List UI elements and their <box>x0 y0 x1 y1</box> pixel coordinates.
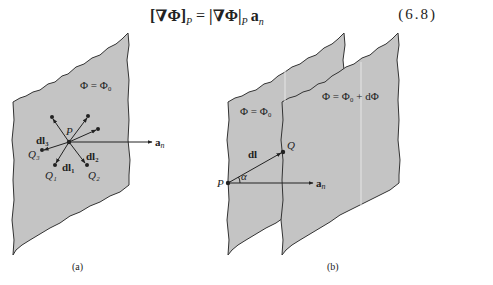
point-p-b <box>226 181 230 185</box>
label-dl-b: dl <box>248 148 257 160</box>
label-alpha: α <box>241 170 247 182</box>
point-q3 <box>40 148 44 152</box>
label-q1: Q₁ <box>45 169 57 181</box>
label-p-a: P <box>65 125 73 137</box>
point-q-b <box>281 150 285 154</box>
label-q2: Q₂ <box>88 169 100 181</box>
caption-b: (b) <box>327 261 339 273</box>
point-q1 <box>53 163 57 167</box>
point-upper-left <box>50 115 54 119</box>
plane-label-phi0-dphi: Φ = Φ₀ + dΦ <box>322 90 379 102</box>
label-q3: Q₃ <box>28 148 40 160</box>
panel-b: Φ = Φ₀ Φ = Φ₀ + dΦ P Q dl α an (b) <box>216 33 400 273</box>
label-dl2: dl₂ <box>86 150 99 162</box>
plane-label-phi0: Φ = Φ₀ <box>240 105 272 117</box>
point-right <box>96 127 100 131</box>
label-p-b: P <box>216 177 224 189</box>
label-q-b: Q <box>287 139 295 151</box>
caption-a: (a) <box>72 261 83 273</box>
point-p-a <box>67 140 71 144</box>
figure: Φ = Φ₀ P dl₃ dl₂ dl₁ Q₃ Q₁ Q₂ an (a) <box>0 0 493 285</box>
label-dl1: dl₁ <box>62 161 74 173</box>
point-upper-right <box>86 114 90 118</box>
plane-label-a: Φ = Φ₀ <box>80 79 112 91</box>
panel-a: Φ = Φ₀ P dl₃ dl₂ dl₁ Q₃ Q₁ Q₂ an (a) <box>12 33 165 273</box>
label-an-a: an <box>155 136 165 150</box>
label-dl3: dl₃ <box>36 134 49 146</box>
point-q2 <box>85 163 89 167</box>
